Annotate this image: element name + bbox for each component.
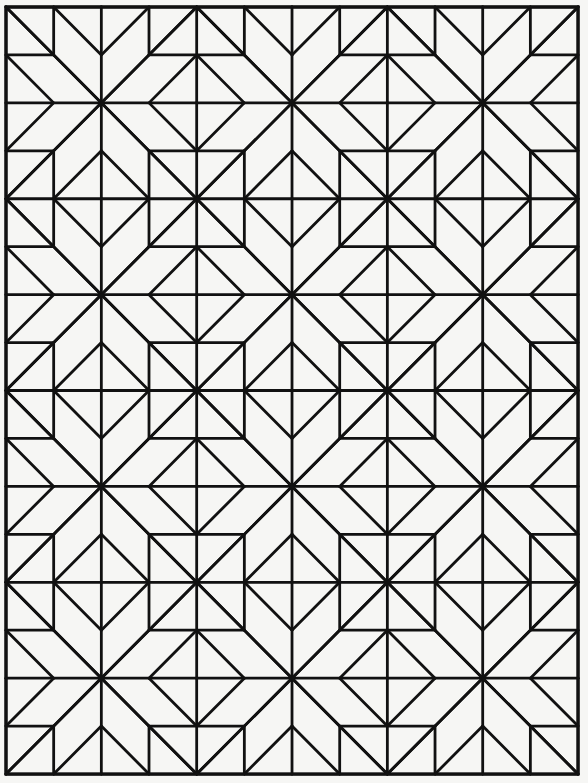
pattern-canvas — [0, 0, 588, 783]
